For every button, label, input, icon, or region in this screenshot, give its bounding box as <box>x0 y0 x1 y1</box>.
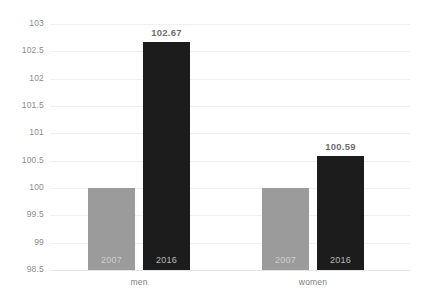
bar-men-2016[interactable]: 2016 <box>143 42 190 270</box>
bar-men-2007[interactable]: 2007 <box>88 188 135 270</box>
bar-year-label: 2016 <box>317 255 364 265</box>
bar-women-2007[interactable]: 2007 <box>262 188 309 270</box>
bar-women-2016[interactable]: 2016 <box>317 156 364 270</box>
bar-value-label: 100.59 <box>317 141 364 152</box>
bar-year-label: 2007 <box>262 255 309 265</box>
bar-year-label: 2007 <box>88 255 135 265</box>
bar-value-label: 102.67 <box>143 27 190 38</box>
plot-area: 20072016102.6720072016100.59menwomen <box>0 0 423 297</box>
x-axis-group-label: women <box>262 277 364 287</box>
x-axis-group-label: men <box>88 277 190 287</box>
bar-chart: 103102.5102101.5101100.510099.59998.5 20… <box>0 0 423 297</box>
bar-year-label: 2016 <box>143 255 190 265</box>
